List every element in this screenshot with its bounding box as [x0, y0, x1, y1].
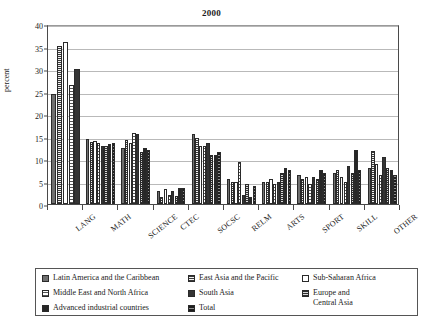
x-axis-tick-mark	[329, 205, 330, 210]
legend-swatch-icon	[188, 290, 195, 297]
legend-swatch-icon	[188, 275, 195, 282]
x-axis-tick-label: OTHER	[391, 212, 418, 236]
bar-group	[224, 26, 259, 204]
legend-item[interactable]: East Asia and the Pacific	[188, 273, 279, 286]
legend-swatch-icon	[302, 290, 309, 297]
x-axis-tick-mark	[153, 205, 154, 210]
x-axis-tick-label: SKILL	[355, 212, 379, 234]
bar	[147, 150, 150, 204]
legend-item[interactable]: Advanced industrial countries	[42, 303, 159, 316]
x-axis-tick-mark	[223, 205, 224, 210]
x-axis-tick-mark	[364, 205, 365, 210]
legend-item[interactable]: Europe and Central Asia	[302, 288, 376, 312]
x-axis-tick-label: CTEC	[179, 212, 201, 232]
x-axis-tick-label: SCIENCE	[147, 212, 180, 240]
legend-column: Sub-Saharan AfricaEurope and Central Asi…	[302, 273, 376, 314]
bar	[112, 143, 115, 204]
bar-group	[330, 26, 365, 204]
bar-group	[259, 26, 294, 204]
bar-series-container	[48, 26, 398, 204]
x-axis-tick-label: LANG	[74, 212, 98, 233]
y-axis-tick-label: 20	[35, 112, 43, 121]
bar-group	[294, 26, 329, 204]
legend-label: Latin America and the Caribbean	[53, 273, 159, 283]
y-axis-tick-label: 40	[35, 22, 43, 31]
x-axis-tick-mark	[258, 205, 259, 210]
legend-label: Middle East and North Africa	[53, 288, 148, 298]
bar	[63, 42, 68, 204]
y-axis-tick-label: 0	[39, 202, 43, 211]
bar-group	[48, 26, 83, 204]
y-axis-tick-label: 35	[35, 44, 43, 53]
legend-swatch-icon	[42, 275, 49, 282]
x-axis-tick-mark	[117, 205, 118, 210]
chart-title: 2000	[0, 8, 423, 18]
bar-group	[83, 26, 118, 204]
legend-column: East Asia and the PacificSouth AsiaTotal	[188, 273, 279, 318]
x-axis-tick-label: SPORT	[321, 212, 347, 235]
y-axis-tick-label: 15	[35, 134, 43, 143]
bar-group	[189, 26, 224, 204]
x-axis-tick-label: MATH	[109, 212, 133, 234]
legend-swatch-icon	[42, 290, 49, 297]
bar	[358, 170, 361, 204]
bar-group	[118, 26, 153, 204]
bar	[393, 175, 396, 204]
legend-label: Sub-Saharan Africa	[313, 273, 376, 283]
bar-group	[154, 26, 189, 204]
x-axis-tick-mark	[82, 205, 83, 210]
y-axis-tick-label: 10	[35, 157, 43, 166]
x-axis-tick-label: ARTS	[284, 212, 306, 232]
legend-label: Europe and Central Asia	[313, 288, 353, 308]
bar	[57, 46, 62, 204]
legend-label: Total	[199, 303, 215, 313]
legend-column: Latin America and the CaribbeanMiddle Ea…	[42, 273, 159, 318]
bar	[51, 94, 56, 204]
bar	[74, 69, 79, 204]
bar	[69, 85, 74, 204]
x-axis-tick-label: SOCSC	[215, 212, 241, 235]
x-axis-tick-mark	[293, 205, 294, 210]
x-axis-tick-mark	[399, 205, 400, 210]
bar	[323, 173, 326, 205]
bar	[217, 152, 220, 204]
bar	[182, 188, 185, 204]
legend-item[interactable]: Middle East and North Africa	[42, 288, 159, 301]
bar	[253, 186, 256, 204]
legend-swatch-icon	[188, 305, 195, 312]
y-axis-label: percent	[2, 68, 11, 92]
legend-item[interactable]: Total	[188, 303, 279, 316]
legend-item[interactable]: South Asia	[188, 288, 279, 301]
bar	[288, 170, 291, 204]
x-axis-tick-mark	[47, 205, 48, 210]
x-axis-tick-label: RELM	[250, 212, 274, 233]
legend-swatch-icon	[302, 275, 309, 282]
chart-legend: Latin America and the CaribbeanMiddle Ea…	[35, 268, 418, 316]
legend-swatch-icon	[42, 305, 49, 312]
legend-item[interactable]: Sub-Saharan Africa	[302, 273, 376, 286]
y-axis-tick-label: 5	[39, 179, 43, 188]
plot-area: 0510152025303540	[47, 25, 399, 205]
legend-label: South Asia	[199, 288, 234, 298]
y-axis-tick-label: 30	[35, 67, 43, 76]
legend-item[interactable]: Latin America and the Caribbean	[42, 273, 159, 286]
x-axis-tick-mark	[188, 205, 189, 210]
legend-label: East Asia and the Pacific	[199, 273, 279, 283]
bar-group	[365, 26, 400, 204]
legend-label: Advanced industrial countries	[53, 303, 149, 313]
y-axis-tick-label: 25	[35, 89, 43, 98]
chart-figure: 2000 percent 0510152025303540 LANGMATHSC…	[0, 0, 423, 324]
